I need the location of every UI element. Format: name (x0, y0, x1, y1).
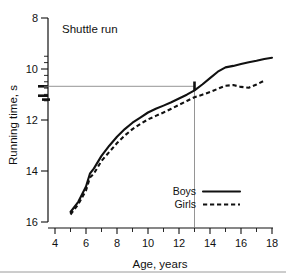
x-ticklabel: 10 (142, 237, 154, 249)
series-line-boys (71, 58, 273, 212)
y-tick-12: 12 (26, 114, 48, 126)
x-tick-18: 18 (266, 228, 278, 249)
data-series (71, 58, 273, 215)
y-ticklabel: 10 (26, 63, 38, 75)
x-tick-16: 16 (235, 228, 247, 249)
x-tick-14: 14 (204, 228, 216, 249)
y-tick-14: 14 (26, 165, 48, 177)
shuttle-run-line-chart: 8 10 12 14 16 (0, 0, 286, 279)
x-ticklabel: 8 (114, 237, 120, 249)
y-axis-title: Running time, s (7, 85, 19, 165)
series-line-girls (71, 81, 265, 215)
x-tick-12: 12 (173, 228, 185, 249)
x-tick-10: 10 (142, 228, 154, 249)
x-ticklabel: 12 (173, 237, 185, 249)
x-tick-4: 4 (52, 228, 58, 249)
x-minor-ticks (71, 228, 257, 232)
chart-figure: 8 10 12 14 16 (0, 0, 286, 279)
y-ticklabel: 14 (26, 165, 38, 177)
x-ticklabel: 4 (52, 237, 58, 249)
x-axis-title: Age, years (133, 258, 188, 270)
legend-label-boys: Boys (173, 185, 196, 197)
legend-label-girls: Girls (174, 198, 196, 210)
x-ticklabel: 16 (235, 237, 247, 249)
x-ticklabel: 14 (204, 237, 216, 249)
x-ticklabel: 18 (266, 237, 278, 249)
legend: Boys Girls (173, 185, 240, 210)
x-tick-8: 8 (114, 228, 120, 249)
x-axis-ticks: 4 6 8 10 12 14 (52, 228, 278, 249)
x-ticklabel: 6 (83, 237, 89, 249)
y-tick-8: 8 (32, 12, 48, 24)
y-ticklabel: 12 (26, 114, 38, 126)
y-tick-10: 10 (26, 63, 48, 75)
y-ticklabel: 16 (26, 216, 38, 228)
y-tick-16: 16 (26, 216, 48, 228)
x-tick-6: 6 (83, 228, 89, 249)
chart-title: Shuttle run (62, 23, 118, 35)
y-ticklabel: 8 (32, 12, 38, 24)
reference-crosshair (44, 82, 195, 229)
y-axis-ticks: 8 10 12 14 16 (26, 12, 50, 228)
